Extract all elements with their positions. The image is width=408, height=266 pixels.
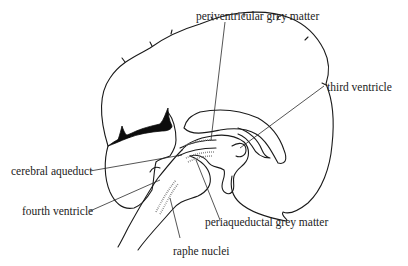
cerebrum-outline [102,12,334,221]
label-raphe-nuclei: raphe nuclei [173,245,230,257]
leader-third-ventricle [240,86,324,148]
label-fourth-ventricle: fourth ventricle [22,205,93,217]
label-periventricular-grey-matter: periventricular grey matter [196,10,319,22]
leader-fourth-ventricle [90,180,160,211]
leader-periaqueductal [196,160,220,220]
thalamus-outline [182,135,249,193]
leader-periventricular [211,22,225,140]
label-periaqueductal-grey-matter: periaqueductal grey matter [205,216,328,228]
label-cerebral-aqueduct: cerebral aqueduct [11,165,92,177]
periaqueductal-stipple [186,152,214,162]
brain-sagittal-diagram [0,0,408,266]
label-third-ventricle: third ventricle [327,81,392,93]
leader-cerebral-aqueduct [90,155,182,171]
raphe-stipple [156,180,178,214]
gyrus-mark [122,13,326,85]
brainstem-anterior [138,156,210,250]
